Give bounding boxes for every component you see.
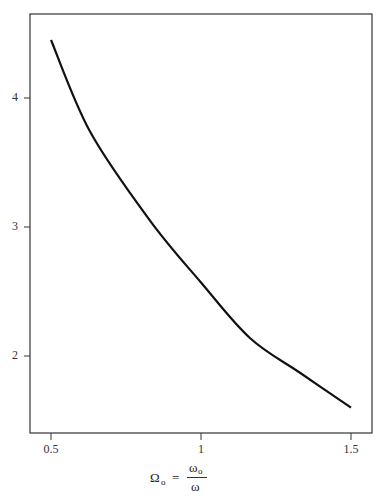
data-curve xyxy=(51,40,351,408)
y-tick-label: 4 xyxy=(12,90,18,105)
x-axis-label: Ω o = ω o ω xyxy=(150,462,250,498)
x-axis-ticks xyxy=(51,433,351,440)
y-axis-ticks xyxy=(24,98,30,356)
x-tick-label: 0.5 xyxy=(41,442,61,457)
y-tick-label: 3 xyxy=(12,219,18,234)
plot-frame xyxy=(30,14,372,433)
denominator: ω xyxy=(191,479,200,495)
chart-plot xyxy=(0,0,383,498)
numerator-subscript: o xyxy=(198,466,203,476)
fraction-bar xyxy=(187,477,207,478)
omega-capital: Ω xyxy=(150,470,160,486)
y-tick-label: 2 xyxy=(12,348,18,363)
numerator: ω xyxy=(189,460,198,476)
equals-sign: = xyxy=(172,470,179,486)
omega-subscript: o xyxy=(161,477,166,487)
x-tick-label: 1 xyxy=(191,442,211,457)
x-tick-label: 1.5 xyxy=(341,442,361,457)
